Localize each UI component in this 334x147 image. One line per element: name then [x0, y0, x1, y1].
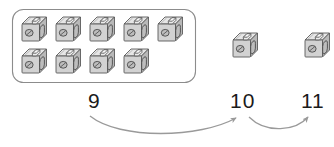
diagram-svg [0, 0, 334, 147]
jump-arrow-9-to-10 [90, 116, 236, 134]
snap-cube-icon [22, 17, 47, 41]
snap-cube-icon [22, 49, 47, 73]
worksheet-canvas: 9 10 11 [0, 0, 334, 147]
loose-cube-1 [233, 33, 258, 57]
jump-arrow-10-to-11 [249, 117, 308, 129]
number-label-11: 11 [301, 90, 325, 111]
loose-cube-2 [305, 33, 330, 57]
snap-cube-icon [124, 17, 149, 41]
snap-cube-icon [56, 49, 81, 73]
snap-cube-icon [56, 17, 81, 41]
snap-cube-icon [124, 49, 149, 73]
snap-cube-icon [90, 49, 115, 73]
number-label-9: 9 [88, 90, 101, 111]
snap-cube-icon [158, 17, 183, 41]
number-label-10: 10 [230, 90, 255, 111]
snap-cube-icon [90, 17, 115, 41]
